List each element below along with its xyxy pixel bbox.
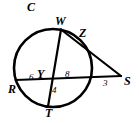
measure-label-yt: 4 bbox=[52, 86, 57, 95]
point-label-t: T bbox=[45, 107, 52, 119]
point-label-y: Y bbox=[37, 68, 44, 80]
point-label-r: R bbox=[8, 83, 16, 95]
point-label-c: C bbox=[27, 1, 35, 13]
measure-label-xs: 3 bbox=[103, 79, 108, 88]
geometry-figure: C W Z S R Y T 6 8 4 3 bbox=[0, 0, 139, 123]
measure-label-yx: 8 bbox=[65, 70, 70, 79]
point-label-w: W bbox=[55, 15, 66, 27]
measure-label-ry: 6 bbox=[29, 73, 34, 82]
point-label-z: Z bbox=[79, 27, 86, 39]
geometry-canvas bbox=[0, 0, 139, 123]
point-label-s: S bbox=[124, 75, 131, 87]
circle-c bbox=[14, 29, 92, 107]
